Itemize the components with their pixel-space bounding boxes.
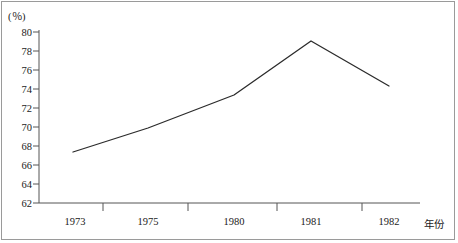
x-tick-label-1981: 1981	[287, 216, 335, 227]
chart-figure: (％) 80 78 76 74 72 70 68 66 64 62	[0, 0, 458, 243]
plot-area	[0, 0, 458, 243]
x-tick-marks	[103, 203, 362, 211]
x-tick-label-1982: 1982	[365, 216, 413, 227]
x-axis-title: 年份	[424, 216, 444, 231]
x-tick-label-1973: 1973	[51, 216, 99, 227]
data-line-series-1	[73, 41, 389, 152]
y-tick-marks	[33, 32, 39, 203]
x-tick-label-1975: 1975	[124, 216, 172, 227]
x-tick-label-1980: 1980	[210, 216, 258, 227]
